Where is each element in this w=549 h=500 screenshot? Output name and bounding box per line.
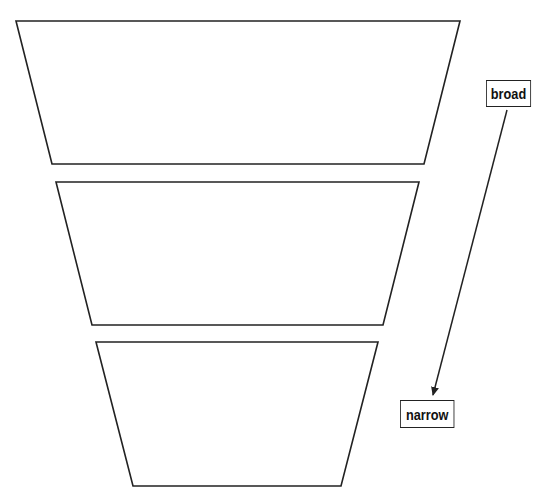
narrow-label: narrow	[400, 400, 454, 428]
funnel-level-2	[56, 182, 419, 325]
funnel-level-1	[16, 21, 460, 164]
funnel-diagram	[0, 0, 549, 500]
broad-to-narrow-arrow	[433, 110, 507, 395]
funnel-level-3	[96, 342, 378, 486]
broad-label: broad	[486, 80, 531, 107]
